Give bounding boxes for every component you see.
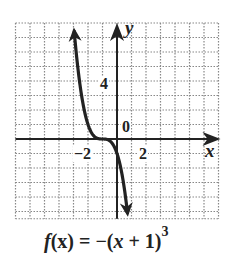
tick-label-y-4: 4: [99, 76, 109, 92]
tick-label-y-0: 0: [121, 119, 131, 135]
function-caption: f(x) = −(x + 1)3: [44, 228, 169, 253]
function-curve: [74, 31, 127, 212]
tick-label-x-neg2: −2: [73, 146, 92, 162]
tick-label-x-2: 2: [138, 146, 148, 162]
x-axis-label: x: [204, 143, 216, 159]
y-axis-label: y: [124, 20, 134, 36]
function-graph: [0, 0, 227, 265]
